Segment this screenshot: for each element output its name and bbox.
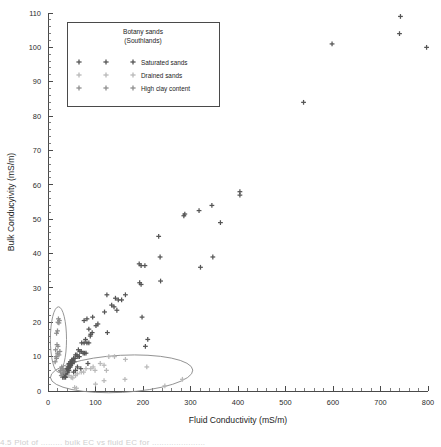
data-point [106, 354, 111, 359]
data-point [198, 265, 203, 270]
y-tick-label: 40 [33, 249, 41, 258]
y-axis-title: Bulk Conducyivity (mS/m) [6, 153, 16, 252]
data-point [93, 382, 98, 387]
data-point [105, 330, 110, 335]
x-tick-label: 800 [422, 398, 434, 407]
data-point [156, 234, 161, 239]
data-point [102, 310, 107, 315]
data-point [301, 100, 306, 105]
data-point [424, 45, 429, 50]
y-tick-label: 30 [33, 284, 41, 293]
data-point [57, 321, 62, 326]
y-tick-label: 90 [33, 77, 41, 86]
x-axis-title: Fluid Conductivity (mS/m) [189, 415, 288, 425]
data-point [123, 357, 128, 362]
x-tick-label: 700 [374, 398, 386, 407]
data-point [86, 361, 91, 366]
x-tick-label: 400 [232, 398, 244, 407]
scatter-plot: 0102030405060708090100110010020030040050… [0, 0, 441, 447]
x-tick-label: 500 [279, 398, 291, 407]
y-tick-label: 70 [33, 146, 41, 155]
y-tick-label: 60 [33, 181, 41, 190]
data-point [143, 263, 148, 268]
data-point [143, 344, 148, 349]
data-point [145, 337, 150, 342]
data-point [140, 315, 145, 320]
x-tick-label: 600 [327, 398, 339, 407]
y-tick-label: 100 [29, 43, 41, 52]
data-point [104, 368, 109, 373]
data-point [218, 220, 223, 225]
data-point [102, 378, 107, 383]
data-point [55, 328, 60, 333]
y-tick-label: 0 [37, 387, 41, 396]
data-point [210, 255, 215, 260]
data-point [238, 193, 243, 198]
x-tick-label: 300 [184, 398, 196, 407]
figure-container: 0102030405060708090100110010020030040050… [0, 0, 441, 447]
data-point [114, 308, 119, 313]
x-tick-label: 0 [46, 398, 50, 407]
data-point [84, 366, 89, 371]
data-point [123, 292, 128, 297]
data-point [158, 279, 163, 284]
data-point [123, 377, 128, 382]
x-tick-label: 100 [89, 398, 101, 407]
y-tick-label: 110 [29, 9, 41, 18]
data-point [162, 383, 167, 388]
legend-title-line1: Botany sands [123, 28, 164, 36]
data-point [397, 31, 402, 36]
y-tick-label: 80 [33, 112, 41, 121]
legend-title-line2: (Southlands) [124, 37, 161, 45]
legend-entry-label: Saturated sands [141, 59, 188, 66]
data-point [158, 255, 163, 260]
figure-caption: 4.5 Plot of ......... bulk EC vs fluid E… [0, 438, 441, 447]
data-point [330, 42, 335, 47]
data-point [81, 370, 86, 375]
data-point [105, 292, 110, 297]
x-tick-label: 200 [137, 398, 149, 407]
legend-entry-label: Drained sands [141, 72, 182, 79]
data-point [90, 315, 95, 320]
data-point [119, 298, 124, 303]
y-tick-label: 20 [33, 318, 41, 327]
data-point [112, 354, 117, 359]
data-point [54, 331, 59, 336]
data-point [197, 208, 202, 213]
data-point [398, 14, 403, 19]
data-point [144, 365, 149, 370]
data-point [209, 203, 214, 208]
data-point [86, 327, 91, 332]
y-tick-label: 50 [33, 215, 41, 224]
legend-entry-label: High clay content [141, 85, 190, 93]
y-tick-label: 10 [33, 352, 41, 361]
